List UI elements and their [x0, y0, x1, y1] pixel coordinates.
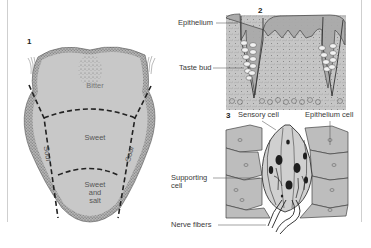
- supporting-line-2: cell: [171, 182, 207, 190]
- panel-2-number: 2: [258, 6, 262, 15]
- sweet-salt-line-3: salt: [80, 197, 110, 205]
- label-supporting-cell: Supporting cell: [171, 174, 207, 190]
- taste-bud-detail-illustration: [213, 121, 348, 234]
- panel-1-number: 1: [27, 37, 31, 46]
- papilla-section-illustration: [213, 14, 346, 110]
- label-taste-bud: Taste bud: [179, 64, 212, 72]
- zone-label-sweet-and-salt: Sweet and salt: [80, 181, 110, 205]
- zone-label-bitter: Bitter: [81, 82, 109, 90]
- panel-3-number: 3: [226, 111, 230, 120]
- label-epithelium: Epithelium: [178, 19, 213, 27]
- zone-label-sweet: Sweet: [80, 134, 110, 142]
- diagram-canvas: [0, 0, 371, 248]
- label-epithelium-cell: Epithelium cell: [305, 111, 353, 119]
- label-sensory-cell: Sensory cell: [238, 111, 279, 119]
- label-nerve-fibers: Nerve fibers: [171, 221, 211, 229]
